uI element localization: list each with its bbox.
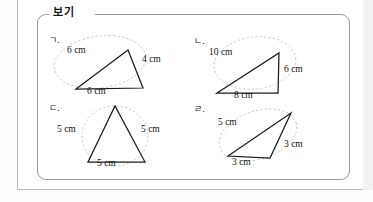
triangle-shape-2 bbox=[217, 53, 279, 93]
triangle-drawing-3 bbox=[45, 96, 195, 172]
side-label-1b: 4 cm bbox=[142, 54, 161, 64]
figure-item-4: ㄹ. 5 cm 3 cm 3 cm bbox=[192, 96, 347, 172]
examples-box-legend: 보기 bbox=[51, 6, 76, 20]
side-label-3a: 5 cm bbox=[57, 124, 76, 134]
side-label-3b: 5 cm bbox=[141, 124, 160, 134]
triangle-drawing-4 bbox=[192, 96, 347, 172]
halo-ellipse-2 bbox=[211, 32, 299, 94]
halo-ellipse-1 bbox=[51, 30, 149, 94]
side-label-3c: 5 cm bbox=[97, 158, 116, 168]
side-label-2a: 10 cm bbox=[209, 47, 232, 57]
side-label-2b: 6 cm bbox=[284, 64, 303, 74]
examples-box: 보기 ㄱ. 6 cm 4 cm 6 cm ㄴ. 10 cm 6 cm 8 cm bbox=[37, 14, 350, 180]
figure-item-3: ㄷ. 5 cm 5 cm 5 cm bbox=[45, 96, 195, 172]
triangle-shape-3 bbox=[88, 106, 145, 162]
side-label-1a: 6 cm bbox=[67, 45, 86, 55]
figure-item-2: ㄴ. 10 cm 6 cm 8 cm bbox=[192, 28, 347, 98]
halo-ellipse-3 bbox=[82, 106, 148, 166]
triangle-shape-1 bbox=[76, 50, 143, 89]
side-label-4b: 3 cm bbox=[284, 139, 303, 149]
figure-item-1: ㄱ. 6 cm 4 cm 6 cm bbox=[45, 28, 195, 98]
page-edge-shadow bbox=[363, 0, 373, 190]
scanned-page: 보기 ㄱ. 6 cm 4 cm 6 cm ㄴ. 10 cm 6 cm 8 cm bbox=[0, 0, 373, 202]
triangle-shape-4 bbox=[228, 113, 291, 158]
side-label-4a: 5 cm bbox=[218, 117, 237, 127]
triangle-drawing-2 bbox=[192, 28, 347, 98]
side-label-4c: 3 cm bbox=[232, 157, 251, 167]
side-label-1c: 6 cm bbox=[87, 86, 106, 96]
triangle-drawing-1 bbox=[45, 28, 195, 98]
